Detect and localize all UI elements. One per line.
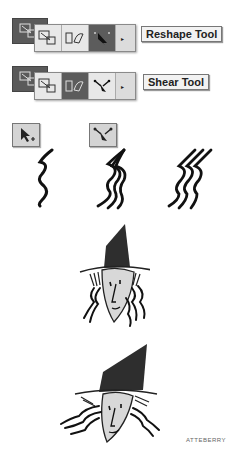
tooltip-reshape: Reshape Tool (141, 26, 222, 42)
shear-tool-button[interactable] (89, 73, 116, 99)
reshaped-wavy-strokes (90, 148, 140, 210)
witch-upright-illustration (70, 222, 150, 332)
hat-icon (99, 344, 147, 392)
toolbar-reshape: ▸ Reshape Tool (0, 18, 231, 50)
witch-sheared-illustration (55, 342, 165, 444)
tooltip-shear: Shear Tool (143, 74, 209, 90)
toolbar-shear: ▸ Shear Tool (0, 66, 231, 98)
reshape-icon (92, 30, 112, 46)
warp-icon (65, 78, 85, 94)
scale-tool-button[interactable] (35, 73, 62, 99)
tool-flyout: ▸ (34, 72, 136, 100)
warp-icon (65, 30, 85, 46)
flyout-arrow-icon[interactable]: ▸ (116, 25, 128, 51)
free-transform-tool-button[interactable] (62, 73, 89, 99)
tool-flyout: ▸ (34, 24, 136, 52)
scale-icon (38, 78, 58, 94)
hat-icon (104, 224, 130, 268)
shear-tool-icon (89, 123, 117, 147)
scale-tool-button[interactable] (35, 25, 62, 51)
artist-credit: ATTEBERRY (186, 437, 226, 443)
single-wavy-stroke (30, 148, 60, 208)
direct-select-add-tool-icon (12, 123, 40, 147)
arrow-plus-icon (13, 124, 39, 146)
shear-icon (90, 124, 116, 146)
flyout-arrow-icon[interactable]: ▸ (116, 73, 128, 99)
sheared-wavy-strokes (165, 148, 220, 210)
reshape-tool-button[interactable] (89, 25, 116, 51)
shear-icon (92, 78, 112, 94)
scale-icon (38, 30, 58, 46)
free-transform-tool-button[interactable] (62, 25, 89, 51)
